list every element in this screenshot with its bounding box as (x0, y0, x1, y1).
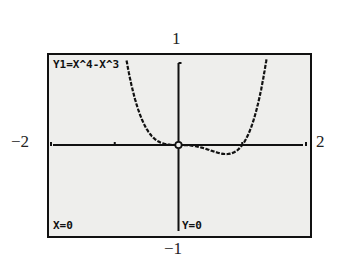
trace-y-value: Y=0 (182, 220, 202, 231)
equation-label: Y1=X^4-X^3 (53, 59, 119, 70)
y-max-label: 1 (172, 30, 181, 47)
x-max-label: 2 (316, 133, 325, 150)
function-curve (127, 59, 267, 154)
graph-plot (49, 55, 310, 236)
trace-cursor (175, 142, 181, 148)
y-min-label: −1 (164, 240, 182, 257)
x-min-label: −2 (11, 133, 29, 150)
calculator-screen: Y1=X^4-X^3 X=0 Y=0 (47, 53, 312, 238)
trace-x-value: X=0 (53, 220, 73, 231)
